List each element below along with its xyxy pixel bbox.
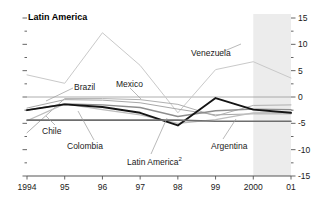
y-tick-label: -10 [298,145,310,155]
series-line-argentina [27,120,291,121]
x-tick-label: 99 [196,182,236,192]
x-tick-label: 96 [82,182,122,192]
forecast-band [253,14,291,176]
latin-america-series-text: Latin America [127,157,179,167]
venezuela-label: Venezuela [191,49,231,58]
leader-line-4 [78,111,94,140]
x-tick-label: 1994 [7,182,47,192]
y-tick-label: -5 [298,118,306,128]
latin-america-series-label: Latin America2 [127,156,182,166]
y-tick-label: 5 [298,66,303,76]
y-tick-label: 0 [298,92,303,102]
x-tick-label: 95 [45,182,85,192]
series-lines [27,33,291,133]
series-line-venezuela [27,33,291,113]
y-tick-label: 10 [298,39,307,49]
y-tick-label: 15 [298,13,307,23]
mexico-label: Mexico [116,80,143,89]
leader-line-5 [151,118,167,154]
brazil-label: Brazil [74,83,95,92]
page-title: Latin America [28,12,87,22]
argentina-label: Argentina [211,142,247,151]
y-tick-label: -15 [298,171,310,181]
x-tick-label: 01 [271,182,311,192]
forecast-shading [253,14,291,176]
chart-plot-area [0,0,324,200]
chile-label: Chile [42,127,61,136]
footnote-marker: 2 [179,156,182,162]
x-tick-label: 98 [158,182,198,192]
x-tick-label: 2000 [233,182,273,192]
latin-america-current-account-chart: Latin America 151050-5-10-15 19949596979… [0,0,324,200]
colombia-label: Colombia [67,142,103,151]
x-tick-label: 97 [120,182,160,192]
